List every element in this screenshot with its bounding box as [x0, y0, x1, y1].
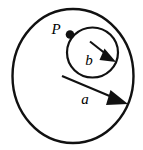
circle-diagram-canvas: P b a [0, 0, 143, 150]
point-p-label: P [50, 21, 60, 37]
point-p-marker [66, 30, 75, 39]
radius-vector-a [62, 76, 128, 105]
radius-a-label: a [81, 91, 89, 107]
radius-b-label: b [85, 52, 93, 68]
radius-vector-b [90, 42, 116, 63]
geometry-figure: P b a [0, 0, 143, 150]
radius-vector-a-arrowhead [106, 90, 128, 105]
outer-circle [13, 9, 134, 143]
